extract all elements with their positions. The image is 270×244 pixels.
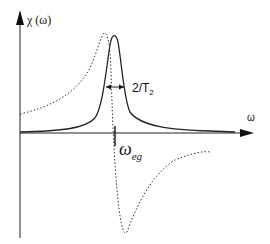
linewidth-sub: 2 [149,88,153,97]
absorption-curve [20,36,235,132]
omega-sub: eg [132,150,142,162]
x-axis-arrow-icon [240,129,254,137]
linewidth-label: 2/T2 [132,81,154,97]
linewidth-text: 2/T [132,81,149,95]
center-frequency-label: ωeg [119,139,142,162]
diagram-canvas [0,0,270,244]
y-axis-arrow-icon [16,10,24,25]
arrow-right-icon [119,85,124,90]
susceptibility-diagram: χ (ω) ω 2/T2 ωeg [0,0,270,244]
x-axis-label: ω [247,112,255,123]
omega-text: ω [119,139,132,159]
y-axis-label: χ (ω) [27,13,51,28]
arrow-left-icon [106,85,111,90]
